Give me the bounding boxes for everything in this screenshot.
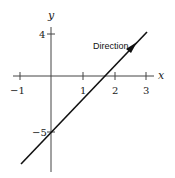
y-axis-label: y bbox=[47, 9, 55, 22]
x-tick-label-2: 2 bbox=[112, 85, 118, 96]
x-tick-label-3: 3 bbox=[143, 85, 149, 96]
x-tick-label-1: 1 bbox=[80, 85, 86, 96]
line-chart: −1 1 2 3 4 −5 x y Direction bbox=[0, 0, 175, 178]
y-tick-label-neg5: −5 bbox=[32, 127, 47, 138]
direction-label: Direction bbox=[93, 41, 129, 51]
y-tick-label-4: 4 bbox=[39, 29, 45, 40]
data-line bbox=[21, 32, 147, 164]
x-tick-label-neg1: −1 bbox=[10, 85, 25, 96]
x-axis-label: x bbox=[158, 69, 165, 82]
